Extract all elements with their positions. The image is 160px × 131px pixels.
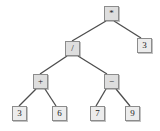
tree-node-minus: − xyxy=(104,74,119,89)
tree-edge-plus-const3 xyxy=(19,89,36,106)
tree-edge-minus-const9 xyxy=(116,89,130,106)
tree-node-leaf-7: 7 xyxy=(90,106,105,121)
tree-edge-div-minus xyxy=(78,56,107,74)
tree-node-leaf-9: 9 xyxy=(125,106,140,121)
tree-edge-div-plus xyxy=(40,56,67,74)
expression-tree-diagram: * / 3 + − 3 6 7 9 xyxy=(0,0,160,131)
tree-edge-minus-const7 xyxy=(96,89,106,106)
tree-node-leaf-3-right: 3 xyxy=(137,38,152,53)
tree-edge-root-const3right xyxy=(114,21,141,38)
tree-edge-plus-const6 xyxy=(45,89,56,106)
tree-edge-root-div xyxy=(72,21,106,41)
tree-node-divide: / xyxy=(65,41,80,56)
tree-node-leaf-6: 6 xyxy=(52,106,67,121)
tree-node-root: * xyxy=(104,6,119,21)
tree-node-leaf-3: 3 xyxy=(12,106,27,121)
tree-node-plus: + xyxy=(33,74,48,89)
